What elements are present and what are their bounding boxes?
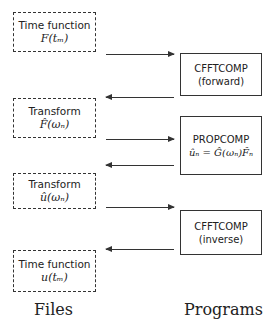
program-subtitle: (inverse) bbox=[199, 233, 243, 246]
file-expr: û(ωₙ) bbox=[40, 191, 69, 204]
program-subtitle: (forward) bbox=[198, 75, 244, 88]
file-transform-F-hat: Transform F̂(ωₙ) bbox=[13, 98, 96, 138]
file-time-function-F: Time function F(tₘ) bbox=[13, 12, 96, 52]
programs-column-label: Programs bbox=[184, 300, 263, 319]
arrow-right-icon bbox=[106, 207, 174, 208]
file-expr: F̂(ωₙ) bbox=[40, 118, 70, 131]
file-title: Time function bbox=[19, 258, 91, 271]
program-formula: ûₙ = Ĝ(ωₙ)F̂ₙ bbox=[189, 146, 253, 159]
program-propcomp: PROPCOMP ûₙ = Ĝ(ωₙ)F̂ₙ bbox=[180, 116, 262, 175]
file-title: Time function bbox=[19, 19, 91, 32]
arrow-left-icon bbox=[106, 249, 174, 250]
program-cfftcomp-forward: CFFTCOMP (forward) bbox=[180, 53, 262, 96]
file-title: Transform bbox=[28, 105, 80, 118]
arrow-right-icon bbox=[106, 139, 174, 140]
arrow-left-icon bbox=[106, 97, 174, 98]
program-title: PROPCOMP bbox=[193, 133, 249, 146]
file-expr: F(tₘ) bbox=[41, 32, 68, 45]
arrow-right-icon bbox=[106, 54, 174, 55]
file-time-function-u: Time function u(tₘ) bbox=[13, 250, 96, 292]
program-title: CFFTCOMP bbox=[194, 220, 247, 233]
file-expr: u(tₘ) bbox=[41, 271, 68, 284]
arrow-left-icon bbox=[106, 165, 174, 166]
file-title: Transform bbox=[28, 178, 80, 191]
program-title: CFFTCOMP bbox=[194, 62, 247, 75]
program-cfftcomp-inverse: CFFTCOMP (inverse) bbox=[180, 210, 262, 255]
files-column-label: Files bbox=[34, 300, 73, 319]
file-transform-u-hat: Transform û(ωₙ) bbox=[13, 173, 96, 209]
